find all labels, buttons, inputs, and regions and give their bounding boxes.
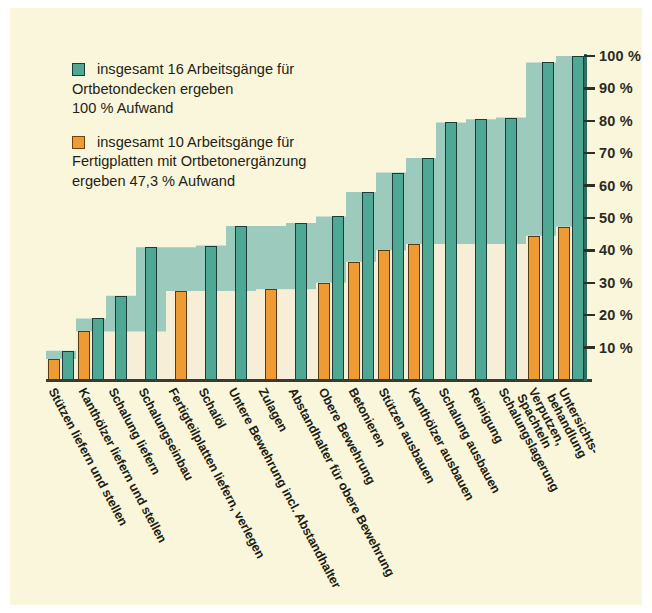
x-axis-label-2: Schalung liefern (105, 386, 162, 477)
y-tick-label-80: 80 % (599, 113, 633, 129)
y-tick-label-60: 60 % (599, 178, 633, 194)
bar-teal-2 (115, 296, 127, 380)
y-tick-10 (584, 346, 595, 348)
y-tick-label-30: 30 % (599, 275, 633, 291)
x-axis-label-17: Untersichts- behandlung (543, 386, 601, 462)
x-axis-label-11: Stützen ausbauen (375, 386, 437, 486)
x-axis-label-0: Stützen liefern und stellen (45, 386, 129, 528)
legend-item-ortbeton: insgesamt 16 Arbeitsgänge für Ortbetonde… (72, 60, 402, 119)
y-tick-80 (584, 120, 595, 122)
bar-teal-3 (145, 247, 157, 380)
bar-teal-17 (572, 56, 584, 380)
bar-teal-14 (475, 119, 487, 380)
chart-legend: insgesamt 16 Arbeitsgänge für Ortbetonde… (72, 60, 402, 205)
y-tick-90 (584, 87, 595, 89)
bar-orange-0 (48, 359, 60, 380)
bar-orange-12 (408, 244, 420, 380)
bar-orange-10 (348, 262, 360, 380)
x-axis-label-5: Schalöl (195, 386, 228, 431)
x-axis-label-10: Betonieren (345, 386, 387, 449)
bar-teal-6 (235, 226, 247, 380)
bar-orange-11 (378, 250, 390, 380)
x-axis-label-1: Kanthölzer liefern und stellen (75, 386, 168, 545)
legend-label-fertigplatten: insgesamt 10 Arbeitsgänge für Fertigplat… (72, 134, 306, 189)
x-axis-label-7: Zulagen (255, 386, 289, 434)
bar-orange-16 (528, 236, 540, 380)
bar-orange-1 (78, 331, 90, 380)
x-axis-label-15: Schalungslagerung (495, 386, 561, 494)
x-axis-label-14: Reinigung (465, 386, 505, 446)
bar-orange-4 (175, 291, 187, 380)
x-axis-label-3: Schalungseinbau (135, 386, 195, 483)
bar-orange-7 (265, 289, 277, 380)
x-axis-label-6: Untere Bewehrung incl. Abstandhalter (225, 386, 342, 591)
legend-item-fertigplatten: insgesamt 10 Arbeitsgänge für Fertigplat… (72, 133, 402, 192)
y-tick-30 (584, 282, 595, 284)
bar-teal-12 (422, 158, 434, 380)
bar-teal-15 (505, 118, 517, 380)
x-axis-label-8: Abstandhalter für obere Bewehrung (285, 386, 396, 579)
y-tick-label-50: 50 % (599, 210, 633, 226)
bar-teal-8 (295, 223, 307, 380)
y-tick-label-90: 90 % (599, 80, 633, 96)
y-tick-label-40: 40 % (599, 242, 633, 258)
y-tick-60 (584, 184, 595, 186)
y-tick-100 (584, 55, 595, 57)
bar-teal-10 (362, 192, 374, 380)
x-axis-label-12: Kanthölzer ausbauen (405, 386, 476, 503)
bar-orange-9 (318, 283, 330, 380)
y-tick-40 (584, 249, 595, 251)
y-tick-label-10: 10 % (599, 340, 633, 356)
y-tick-label-100: 100 % (599, 48, 641, 64)
chart-panel: 100 %90 %80 %70 %60 %50 %40 %30 %20 %10 … (10, 8, 642, 605)
bar-teal-16 (542, 62, 554, 380)
bar-teal-0 (62, 351, 74, 380)
bar-teal-9 (332, 216, 344, 380)
y-tick-label-70: 70 % (599, 145, 633, 161)
bar-teal-1 (92, 318, 104, 380)
y-tick-70 (584, 152, 595, 154)
bar-orange-17 (558, 227, 570, 380)
legend-swatch-orange-icon (72, 136, 85, 149)
chart-figure: 100 %90 %80 %70 %60 %50 %40 %30 %20 %10 … (0, 0, 652, 613)
legend-swatch-teal-icon (72, 63, 85, 76)
x-axis-label-9: Obere Bewehrung (315, 386, 377, 487)
bar-teal-5 (205, 246, 217, 380)
x-axis-label-4: Fertigteilplatten liefern, verlegen (165, 386, 267, 561)
y-tick-label-20: 20 % (599, 307, 633, 323)
y-tick-20 (584, 314, 595, 316)
bar-teal-13 (445, 122, 457, 380)
x-axis-baseline (46, 379, 592, 382)
y-tick-50 (584, 217, 595, 219)
legend-label-ortbeton: insgesamt 16 Arbeitsgänge für Ortbetonde… (72, 61, 294, 116)
x-axis-label-16: Verputzen, Spachteln (513, 386, 595, 509)
x-axis-label-13: Schalung ausbauen (435, 386, 502, 496)
